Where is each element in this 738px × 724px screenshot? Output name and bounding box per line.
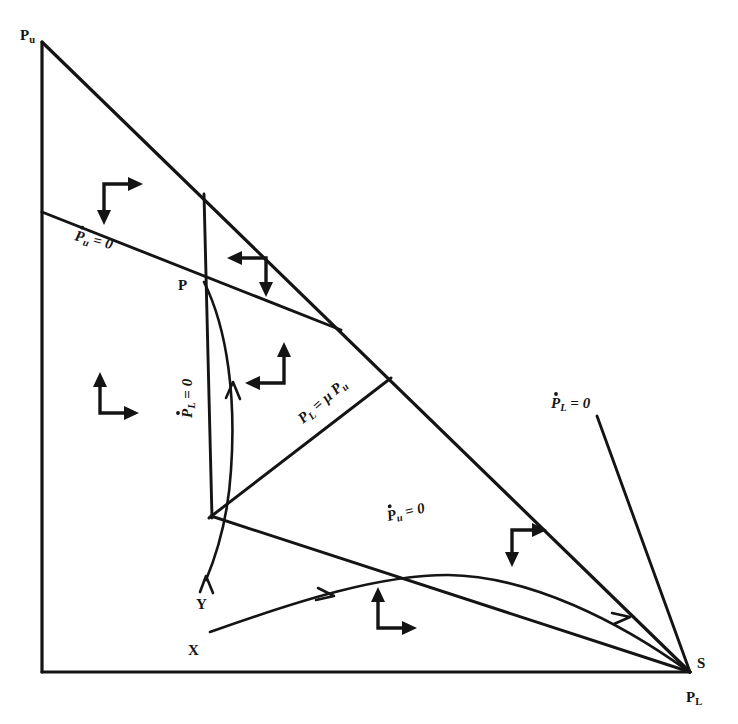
trajectory-Y-arrowhead xyxy=(226,382,240,399)
dir-glyph-down-right-2 xyxy=(505,523,547,567)
pu-nullcline-upper xyxy=(42,212,341,330)
label-pl-null-right: PL = 0 xyxy=(551,392,591,413)
nullcline-group xyxy=(42,194,690,672)
vertical-axis-label: Pu xyxy=(20,27,35,45)
svg-text:Pu = 0: Pu = 0 xyxy=(385,500,427,526)
svg-text:PL = μ Pu: PL = μ Pu xyxy=(294,376,350,428)
label-pl-null-vertical: PL = 0 xyxy=(176,378,197,418)
label-pu-null-upper: Pu = 0 xyxy=(73,225,116,255)
trajectory-Y-tail-arrowhead xyxy=(200,576,213,593)
svg-text:PL = 0: PL = 0 xyxy=(179,378,197,418)
dot-accent-pl-vertical xyxy=(176,411,180,415)
svg-text:Pu = 0: Pu = 0 xyxy=(73,227,115,254)
trajectory-X-arrowhead-2 xyxy=(612,613,630,624)
point-label-P: P xyxy=(178,277,187,293)
phase-diagram-figure: Pu PL P S Y X Pu = 0 PL = 0 PL = μ Pu xyxy=(0,0,738,724)
triangle-boundary xyxy=(42,42,690,672)
dot-accent-pl-right xyxy=(554,392,558,396)
svg-text:PL = 0: PL = 0 xyxy=(551,395,591,413)
pu-nullcline-lower xyxy=(211,516,690,672)
point-label-X: X xyxy=(188,642,199,658)
hypotenuse-line xyxy=(42,42,690,672)
trajectory-group xyxy=(200,282,688,671)
dir-glyph-left-up xyxy=(245,342,291,390)
dir-glyph-left-down xyxy=(227,251,273,297)
pl-nullcline-vertical xyxy=(204,194,212,518)
dir-glyph-up-right-2 xyxy=(371,587,417,635)
pl-nullcline-right xyxy=(597,416,690,672)
label-pu-null-lower: Pu = 0 xyxy=(384,497,427,526)
phase-plane-svg: Pu PL P S Y X Pu = 0 PL = 0 PL = μ Pu xyxy=(0,0,738,724)
horizontal-axis-label: PL xyxy=(686,689,702,707)
dir-glyph-down-right xyxy=(97,177,143,225)
point-label-S: S xyxy=(697,655,705,671)
point-label-Y: Y xyxy=(196,596,207,612)
dir-glyph-up-right xyxy=(93,372,139,420)
label-pl-equals-mu-pu: PL = μ Pu xyxy=(294,376,350,428)
pl-equals-mu-pu-ray xyxy=(209,378,391,518)
